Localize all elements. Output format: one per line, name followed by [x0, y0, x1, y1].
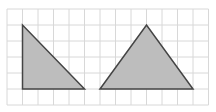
grid-figure [0, 0, 216, 112]
